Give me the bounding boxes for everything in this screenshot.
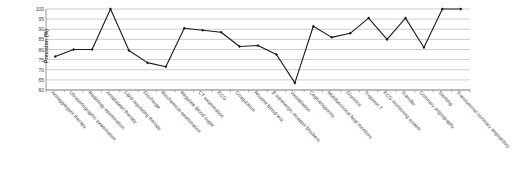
x-tick-label: Discharge bbox=[142, 90, 161, 110]
y-tick-label: 75 bbox=[38, 57, 44, 62]
x-tick-label: Transluminal coronary angioplasty bbox=[456, 90, 511, 149]
gridlines bbox=[46, 9, 470, 90]
x-tick-label: Transfer bbox=[400, 90, 416, 107]
x-tick-label: Coronary angiography bbox=[419, 90, 456, 130]
data-point-marker bbox=[72, 48, 75, 51]
y-tick-label: 70 bbox=[38, 67, 44, 72]
x-tick-label: Diuretics bbox=[345, 90, 362, 108]
y-tick-label: 80 bbox=[38, 47, 44, 52]
x-axis-tick-labels: Antiaggregant therapyUltrasonographic ex… bbox=[0, 90, 480, 178]
x-tick-label: ECG bbox=[216, 90, 227, 101]
plot-area bbox=[46, 9, 470, 90]
data-point-marker bbox=[54, 55, 57, 58]
y-tick-label: 90 bbox=[38, 27, 44, 32]
y-tick-label: 100 bbox=[36, 7, 44, 12]
x-tick-label: Stenting bbox=[437, 90, 453, 107]
data-point-marker bbox=[459, 8, 462, 11]
x-tick-label: Antiaggregant therapy bbox=[50, 90, 87, 129]
x-tick-label: ECG monitoring system bbox=[382, 90, 422, 132]
plot-svg bbox=[46, 9, 470, 90]
x-tick-label: Regulate blood sugar bbox=[179, 90, 215, 128]
y-tick-label: 65 bbox=[38, 77, 44, 82]
y-axis-tick-labels: 1009590858075706560 bbox=[28, 5, 44, 93]
y-tick-label: 95 bbox=[38, 17, 44, 22]
x-tick-label: Troponin T bbox=[363, 90, 383, 111]
y-tick-label: 85 bbox=[38, 37, 44, 42]
